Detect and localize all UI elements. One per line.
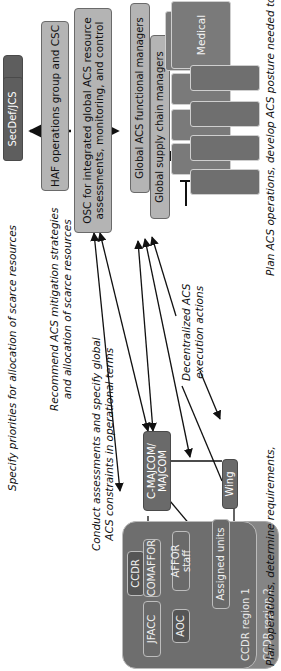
assigned-units-label: Assigned units <box>215 528 227 601</box>
ccdr-region-1-label: CCDR region 1 <box>240 588 251 661</box>
secdef-jcs-label: SecDef/JCS <box>7 91 19 146</box>
functional-managers-label: Global ACS functional managers <box>134 17 146 178</box>
wing-node: Wing <box>222 459 238 509</box>
secdef-jcs-box: SecDef/JCS <box>3 77 23 161</box>
conduct-line1: Conduct assessments and specify global <box>90 337 103 551</box>
jfacc-label: JFACC <box>146 615 158 643</box>
annotation-conduct-assessments: Conduct assessments and specify global A… <box>90 337 115 551</box>
annotation-decentralized: Decentralized ACS execution actions <box>180 284 205 381</box>
cmajcom-label-line1: C-MAJCOM/ <box>146 443 158 499</box>
medical-label: Medical <box>195 15 207 55</box>
cmajcom-node: C-MAJCOM/ MAJCOM <box>143 431 171 511</box>
osc-label-line2: assessments, monitoring, and control <box>93 22 105 220</box>
annotation-plan-operations: Plan operations, determine requirements, <box>264 446 277 666</box>
aoc-label: AOC <box>175 615 187 637</box>
supply-area-maintenance <box>190 135 260 161</box>
cmajcom-label-line2: MAJCOM <box>157 450 169 492</box>
functional-managers-node: Global ACS functional managers <box>130 3 150 193</box>
affor-staff-label: AFFOR staff <box>170 532 193 590</box>
recommend-line1: Recommend ACS mitigation strategies <box>48 208 61 411</box>
annotation-plan-acs-operations: Plan ACS operations, develop ACS posture… <box>264 0 277 276</box>
diagram-canvas: SecDef/JCS HAF operations group and CSC … <box>0 0 281 671</box>
supply-area-procurement <box>190 101 260 127</box>
osc-node: OSC for integrated global ACS resource a… <box>74 8 112 233</box>
osc-label-line1: OSC for integrated global ACS resource <box>81 17 93 224</box>
conduct-line2: ACS constraints in operational terms <box>103 337 116 551</box>
jfacc-node: JFACC <box>143 601 161 657</box>
aoc-node: AOC <box>172 609 190 643</box>
comaffor-label: COMAFFOR <box>146 540 158 597</box>
supply-area-movement <box>190 65 260 91</box>
comaffor-node: COMAFFOR <box>143 539 161 597</box>
recommend-line2: and allocation of scarce resources <box>61 208 74 411</box>
wing-label: Wing <box>224 471 236 496</box>
supply-area-storage <box>190 169 260 195</box>
ccdr-label: CCDR <box>130 559 142 588</box>
functional-area-medical-label-box: Medical <box>171 1 231 69</box>
affor-staff-node: AFFOR staff <box>172 531 190 591</box>
supply-chain-managers-label: Global supply chain managers <box>154 51 166 203</box>
assigned-units-node: Assigned units <box>212 519 230 609</box>
decentralized-line1: Decentralized ACS <box>180 284 193 381</box>
annotation-recommend: Recommend ACS mitigation strategies and … <box>48 208 73 411</box>
annotation-specify-priorities: Specify priorities for allocation of sca… <box>6 225 19 491</box>
decentralized-line2: execution actions <box>193 284 206 381</box>
haf-operations-node: HAF operations group and CSC <box>41 21 69 191</box>
haf-operations-label: HAF operations group and CSC <box>49 25 61 187</box>
